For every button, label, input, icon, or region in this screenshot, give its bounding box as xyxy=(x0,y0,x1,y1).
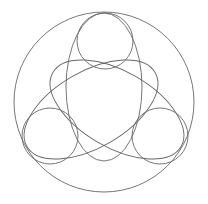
small-circle-lower-right xyxy=(132,108,188,164)
small-circle-lower-left xyxy=(22,108,78,164)
ellipse-group xyxy=(8,13,200,179)
geometric-diagram xyxy=(0,0,208,204)
outer-circle xyxy=(14,12,194,192)
small-circle-top xyxy=(77,13,133,69)
small-circle-group xyxy=(22,13,188,164)
